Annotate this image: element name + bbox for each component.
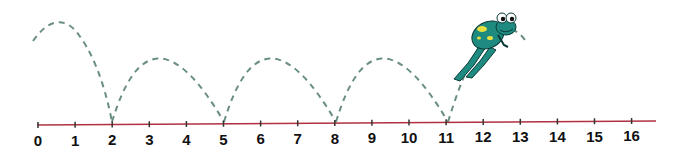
tick-label: 7 — [294, 130, 302, 147]
jump-arcs — [33, 22, 525, 122]
number-line-axis — [37, 121, 656, 125]
tick-label: 0 — [34, 132, 42, 149]
tick-label: 11 — [438, 129, 454, 146]
tick-label: 3 — [145, 131, 153, 148]
tick-labels: 012345678910111213141516 — [34, 127, 640, 149]
jump-arc-8-11 — [336, 59, 448, 123]
tick-label: 2 — [108, 131, 116, 148]
tick-label: 4 — [182, 131, 191, 148]
tick-label: 8 — [331, 130, 339, 147]
tick-label: 16 — [623, 127, 640, 144]
tick-label: 10 — [401, 129, 418, 146]
number-line-diagram: 012345678910111213141516 — [0, 0, 689, 155]
tick-label: 5 — [219, 131, 227, 148]
tick-label: 6 — [256, 130, 264, 147]
frog-icon — [454, 13, 516, 81]
jump-arc-2-5 — [112, 59, 224, 123]
tick-label: 14 — [549, 128, 566, 145]
tick-label: 13 — [512, 128, 529, 145]
tick-label: 12 — [475, 128, 492, 145]
tick-label: 1 — [71, 132, 79, 149]
tick-label: 15 — [586, 128, 603, 145]
tick-label: 9 — [368, 129, 376, 146]
tick-marks — [38, 118, 632, 128]
jump-arc-start — [33, 22, 112, 122]
jump-arc-5-8 — [224, 59, 336, 123]
